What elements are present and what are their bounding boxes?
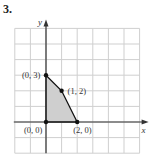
y-axis-arrow-icon — [44, 19, 49, 26]
vertex-label: (1, 2) — [68, 86, 87, 96]
vertex-label: (0, 3) — [22, 70, 41, 80]
y-axis-label: y — [37, 17, 42, 27]
x-axis-arrow-icon — [142, 120, 149, 125]
coordinate-plane: xy (0, 0)(0, 3)(1, 2)(2, 0) — [0, 0, 152, 162]
vertex-point — [44, 73, 48, 77]
vertex-label: (2, 0) — [73, 125, 92, 135]
x-axis-label: x — [141, 125, 146, 135]
vertex-point — [59, 89, 63, 93]
vertex-point — [75, 120, 79, 124]
vertex-label: (0, 0) — [24, 125, 43, 135]
vertex-point — [44, 120, 48, 124]
